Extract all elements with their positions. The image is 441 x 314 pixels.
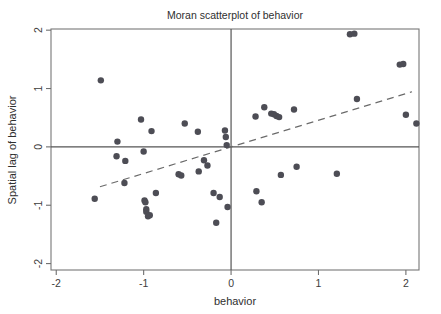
- scatter-point: [354, 96, 360, 102]
- x-tick-label: -1: [139, 277, 148, 289]
- y-tick-label: 2: [32, 27, 44, 33]
- scatter-point: [195, 129, 201, 135]
- scatter-point: [178, 172, 184, 178]
- scatter-point: [196, 168, 202, 174]
- y-axis-ticks: -2-1012: [32, 27, 51, 268]
- scatter-point: [351, 30, 357, 36]
- scatter-point: [223, 142, 229, 148]
- y-tick-label: 0: [32, 144, 44, 150]
- scatter-point: [252, 113, 258, 119]
- scatter-point: [403, 112, 409, 118]
- y-tick-label: -1: [32, 200, 44, 209]
- scatter-point: [122, 158, 128, 164]
- scatter-point: [138, 116, 144, 122]
- scatter-point: [147, 212, 153, 218]
- y-tick-label: 1: [32, 85, 44, 91]
- chart-title: Moran scatterplot of behavior: [167, 9, 303, 21]
- scatter-point: [153, 190, 159, 196]
- scatter-point: [258, 199, 264, 205]
- scatterplot-canvas: Moran scatterplot of behavior -2-1012 -2…: [0, 0, 441, 314]
- scatter-point: [400, 61, 406, 67]
- plot-frame: [51, 29, 419, 270]
- scatter-point: [113, 153, 119, 159]
- scatter-point: [334, 171, 340, 177]
- data-points-layer: [92, 30, 420, 225]
- scatter-point: [293, 164, 299, 170]
- scatter-point: [204, 162, 210, 168]
- moran-scatterplot-figure: Moran scatterplot of behavior -2-1012 -2…: [0, 0, 441, 314]
- scatter-point: [182, 120, 188, 126]
- scatter-point: [201, 157, 207, 163]
- y-axis-title: Spatial lag of behavior: [6, 95, 18, 204]
- scatter-point: [261, 104, 267, 110]
- y-tick-label: -2: [32, 259, 44, 268]
- scatter-point: [92, 196, 98, 202]
- scatter-point: [222, 127, 228, 133]
- scatter-point: [210, 190, 216, 196]
- scatter-point: [142, 199, 148, 205]
- scatter-point: [148, 128, 154, 134]
- x-tick-label: 0: [228, 277, 234, 289]
- scatter-point: [276, 114, 282, 120]
- scatter-point: [291, 106, 297, 112]
- scatter-point: [413, 120, 419, 126]
- x-tick-label: 1: [316, 277, 322, 289]
- scatter-point: [253, 188, 259, 194]
- x-tick-label: 2: [403, 277, 409, 289]
- scatter-point: [217, 194, 223, 200]
- scatter-point: [140, 148, 146, 154]
- scatter-point: [278, 172, 284, 178]
- scatter-point: [98, 77, 104, 83]
- moran-fit-line: [100, 92, 412, 187]
- x-axis-ticks: -2-1012: [52, 270, 409, 289]
- scatter-point: [121, 180, 127, 186]
- scatter-point: [213, 220, 219, 226]
- scatter-point: [114, 138, 120, 144]
- scatter-point: [223, 134, 229, 140]
- x-axis-title: behavior: [214, 295, 257, 307]
- x-tick-label: -2: [52, 277, 61, 289]
- scatter-point: [224, 204, 230, 210]
